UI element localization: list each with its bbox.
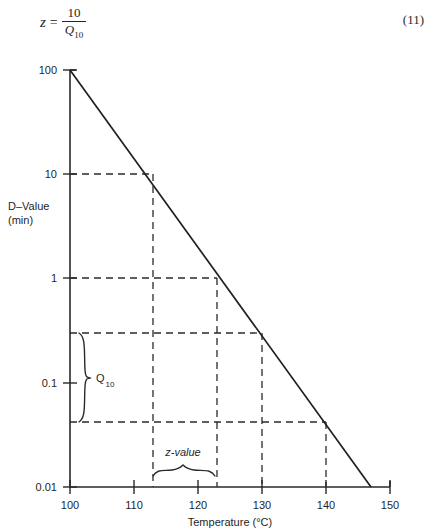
equation-denominator-subscript: 10 [74,29,83,39]
x-tick-label-2: 120 [189,499,207,511]
x-tick-label-4: 140 [317,499,335,511]
equation-band: z = 10 Q10 (11) [0,0,438,56]
z-value-annotation: z-value [153,446,215,476]
x-axis-title: Temperature (°C) [188,516,272,528]
x-axis-tick-labels: 100 110 120 130 140 150 [61,499,399,511]
chart-container: 100 10 1 0.1 0.01 100 110 120 130 140 15… [0,52,438,529]
y-tick-label-1: 10 [45,168,57,180]
x-tick-label-3: 130 [253,499,271,511]
z-value-brace [153,465,215,476]
equation-number: (11) [403,12,424,28]
q10-label-base: Q [96,372,105,384]
y-tick-label-0: 100 [39,64,57,76]
equation-variable: z [40,14,46,31]
x-tick-label-0: 100 [61,499,79,511]
x-tick-label-5: 150 [381,499,399,511]
equation-fraction: 10 Q10 [62,6,86,40]
y-tick-label-2: 1 [51,272,57,284]
q10-brace [79,333,90,422]
equation-z-definition: z = 10 Q10 [40,6,86,40]
y-axis-tick-labels: 100 10 1 0.1 0.01 [36,64,57,493]
q10-annotation: Q10 [79,333,115,422]
d-value-temperature-chart: 100 10 1 0.1 0.01 100 110 120 130 140 15… [0,52,438,529]
equation-denominator-base: Q [65,22,74,37]
y-axis-title-line2: (min) [8,214,33,226]
thermal-death-time-line [70,70,371,487]
y-tick-label-3: 0.1 [42,377,57,389]
y-tick-label-4: 0.01 [36,481,57,493]
guide-lines [70,174,326,487]
equation-equals-sign: = [50,15,58,31]
x-tick-label-1: 110 [125,499,143,511]
y-axis-title: D–Value (min) [8,200,49,226]
q10-label-subscript: 10 [106,380,115,389]
y-axis-title-line1: D–Value [8,200,49,212]
equation-numerator: 10 [64,6,83,21]
z-value-label: z-value [164,446,200,458]
equation-denominator: Q10 [62,22,86,40]
q10-label: Q10 [96,372,115,389]
